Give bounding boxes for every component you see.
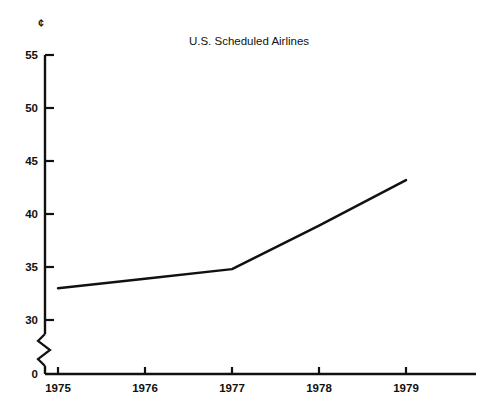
x-tick-label-1978: 1978 <box>306 382 332 394</box>
y-tick-label-35: 35 <box>25 261 38 273</box>
y-tick-label-30: 30 <box>25 314 38 326</box>
x-tick-label-1977: 1977 <box>219 382 245 394</box>
data-series-line <box>58 180 406 288</box>
chart-figure: ¢ 55 50 45 40 35 30 0 1975 1976 1977 197… <box>0 0 491 417</box>
x-tick-label-1976: 1976 <box>132 382 158 394</box>
x-tick-label-1975: 1975 <box>45 382 71 394</box>
y-tick-label-40: 40 <box>25 208 38 220</box>
y-tick-label-55: 55 <box>25 49 38 61</box>
y-axis-break-icon <box>38 334 50 366</box>
y-tick-label-50: 50 <box>25 102 38 114</box>
y-tick-label-0: 0 <box>32 368 38 380</box>
line-chart-canvas: ¢ 55 50 45 40 35 30 0 1975 1976 1977 197… <box>0 0 491 417</box>
x-tick-label-1979: 1979 <box>393 382 419 394</box>
y-tick-label-45: 45 <box>25 155 38 167</box>
chart-title: U.S. Scheduled Airlines <box>189 35 309 47</box>
y-axis-unit-symbol: ¢ <box>38 18 44 29</box>
